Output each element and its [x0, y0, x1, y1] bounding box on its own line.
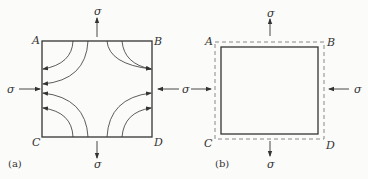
sigma-left-a: σ — [7, 83, 15, 96]
sigma-right-a: σ — [182, 83, 190, 96]
original-square-b — [215, 42, 324, 139]
corner-c-b: C — [204, 137, 213, 150]
deformed-square-b — [221, 47, 318, 134]
caption-b: (b) — [215, 158, 229, 169]
sigma-bottom-a: σ — [94, 158, 102, 171]
corner-b-a: B — [153, 35, 162, 48]
panel-a: σ σ σ A B C D (a) — [7, 5, 179, 171]
corner-b-b: B — [326, 36, 335, 49]
sigma-right-b: σ — [354, 83, 362, 96]
flow-lines — [43, 41, 151, 137]
corner-d-b: D — [325, 139, 335, 152]
sigma-top-a: σ — [94, 5, 102, 18]
caption-a: (a) — [8, 158, 22, 169]
sigma-bottom-b: σ — [267, 158, 275, 171]
corner-c-a: C — [32, 136, 41, 149]
panel-b: σ σ σ A B C D (b) — [191, 7, 362, 171]
sigma-top-b: σ — [267, 7, 275, 20]
figure: σ σ σ A B C D (a) σ σ σ σ A B C D (b) — [0, 0, 368, 179]
square-a — [42, 41, 152, 137]
corner-d-a: D — [153, 136, 163, 149]
corner-a-a: A — [31, 34, 40, 47]
corner-a-b: A — [204, 35, 213, 48]
